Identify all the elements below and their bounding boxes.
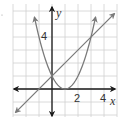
y-axis-label: y (55, 6, 62, 20)
x-axis-label: x (109, 94, 116, 108)
coordinate-plane: y x 4 2 4 (0, 0, 124, 122)
x-tick-label-2: 2 (74, 92, 80, 104)
y-tick-label-4: 4 (41, 30, 47, 42)
stray-dot (1, 14, 2, 15)
x-tick-label-4: 4 (100, 92, 106, 104)
